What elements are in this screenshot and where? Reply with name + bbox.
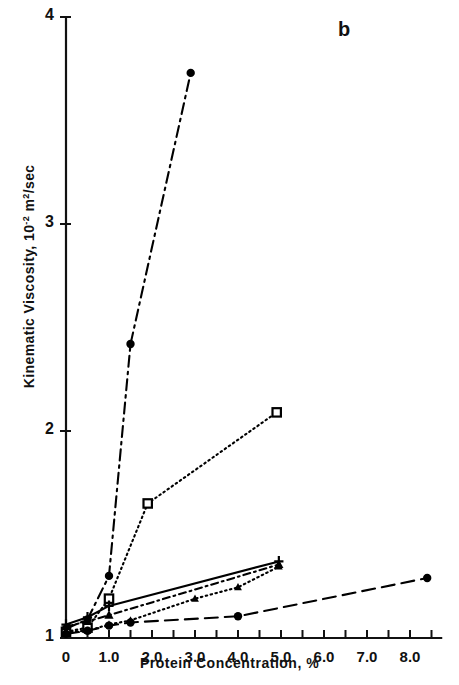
x-tick-label: 3.0 (175, 648, 215, 665)
data-point-circle (105, 572, 113, 580)
data-point-circle (83, 627, 91, 635)
axes (60, 17, 442, 638)
data-point-circle (126, 618, 134, 626)
series-line (66, 73, 191, 629)
data-point-circle (105, 621, 113, 629)
x-tick-label: 0 (46, 648, 86, 665)
series-longdash-circle (62, 574, 432, 638)
data-point-square (144, 499, 152, 507)
x-tick-label: 5.0 (261, 648, 301, 665)
data-series (61, 69, 431, 638)
x-tick-label: 1.0 (89, 648, 129, 665)
panel-label: b (338, 18, 350, 41)
y-tick-label: 3 (32, 213, 54, 231)
y-axis-label-exp2: 2 (21, 193, 31, 198)
series-dashdot-circle (62, 69, 195, 633)
data-point-square (273, 408, 281, 416)
x-tick-label: 6.0 (304, 648, 344, 665)
plot-area (0, 0, 459, 685)
y-tick-label: 2 (32, 420, 54, 438)
data-point-triangle (104, 610, 113, 619)
data-point-circle (187, 69, 195, 77)
y-tick-label: 4 (32, 6, 54, 24)
data-point-circle (423, 574, 431, 582)
data-point-circle (234, 612, 242, 620)
series-line (66, 578, 427, 634)
data-point-circle (62, 630, 70, 638)
series-line (66, 565, 279, 627)
series-dotted-square (62, 408, 281, 636)
x-tick-label: 7.0 (347, 648, 387, 665)
x-tick-label: 2.0 (132, 648, 172, 665)
data-point-circle (126, 340, 134, 348)
y-axis-label-exp1: -2 (21, 216, 31, 225)
x-tick-label: 4.0 (218, 648, 258, 665)
y-tick-label: 1 (32, 627, 54, 645)
y-axis-label-pre: Kinematic Viscosity, 10 (21, 225, 37, 389)
y-axis-label: Kinematic Viscosity, 10-2 m2/sec (21, 141, 38, 411)
x-tick-label: 8.0 (390, 648, 430, 665)
y-axis-label-post: /sec (21, 164, 37, 193)
